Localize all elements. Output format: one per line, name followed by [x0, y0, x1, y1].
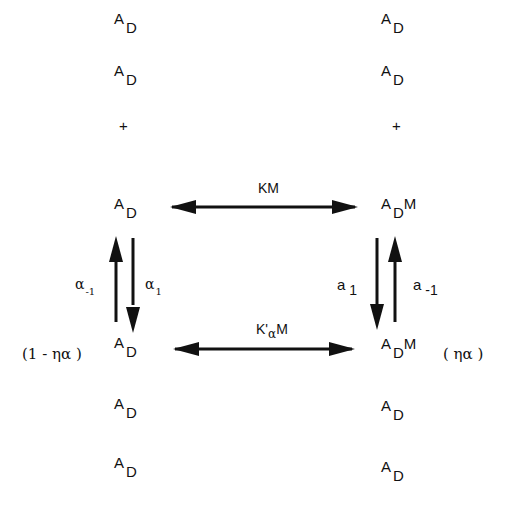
species-sub: D	[126, 71, 137, 88]
right-species-1: AD	[381, 11, 404, 26]
right-plus-sign: +	[392, 117, 401, 134]
label-base: K'	[256, 321, 268, 337]
species-sub: D	[393, 204, 404, 221]
label-sub: α	[268, 327, 276, 341]
right-down-arrow	[370, 238, 384, 330]
species-base: A	[114, 395, 124, 412]
top-arrow-label: KM	[258, 180, 279, 196]
right-species-5: AD	[381, 398, 404, 413]
bottom-arrow-label: K'αM	[256, 321, 288, 337]
rate-symbol: a	[413, 276, 421, 293]
species-base: A	[114, 454, 124, 471]
rate-symbol: α	[145, 276, 154, 292]
right-species-2: AD	[381, 63, 404, 78]
species-sub: D	[126, 463, 137, 480]
left-species-2: AD	[114, 63, 137, 78]
rate-symbol: a	[337, 276, 345, 293]
rate-a-minus-1: a-1	[413, 276, 438, 293]
species-suffix: M	[404, 195, 417, 212]
species-base: A	[114, 62, 124, 79]
rate-index: -1	[85, 286, 95, 297]
left-up-arrow	[109, 236, 123, 322]
species-base: A	[381, 335, 391, 352]
species-sub: D	[126, 204, 137, 221]
rate-a-1: a1	[337, 276, 357, 293]
species-sub: D	[126, 343, 137, 360]
species-suffix: M	[404, 335, 417, 352]
rate-alpha-minus-1: α-1	[75, 276, 95, 292]
left-species-1: AD	[114, 11, 137, 26]
label-suffix: M	[276, 321, 288, 337]
left-species-5: AD	[114, 396, 137, 411]
species-base: A	[114, 195, 124, 212]
species-sub: D	[393, 71, 404, 88]
rate-alpha-1: α1	[145, 276, 162, 292]
rate-symbol: α	[75, 276, 84, 292]
reaction-arrows	[0, 0, 520, 510]
species-base: A	[381, 458, 391, 475]
left-species-alt: AD	[114, 335, 137, 350]
right-species-6: AD	[381, 459, 404, 474]
rate-index: 1	[349, 282, 357, 298]
bottom-equilibrium-arrow	[173, 342, 355, 356]
left-species-free: AD	[114, 196, 137, 211]
species-sub: D	[393, 406, 404, 423]
left-species-6: AD	[114, 455, 137, 470]
species-sub: D	[393, 19, 404, 36]
left-down-arrow	[126, 238, 140, 333]
rate-index: 1	[155, 286, 161, 297]
right-species-bound-alt: ADM	[381, 336, 416, 351]
species-base: A	[114, 10, 124, 27]
left-fraction-label: (1 - ηα )	[22, 345, 82, 363]
species-sub: D	[393, 467, 404, 484]
species-sub: D	[393, 344, 404, 361]
species-base: A	[114, 334, 124, 351]
species-base: A	[381, 62, 391, 79]
right-species-bound: ADM	[381, 196, 416, 211]
species-base: A	[381, 195, 391, 212]
right-up-arrow	[388, 236, 402, 322]
top-equilibrium-arrow	[170, 200, 358, 214]
left-plus-sign: +	[119, 117, 128, 134]
right-fraction-label: ( ηα )	[443, 345, 483, 363]
species-base: A	[381, 397, 391, 414]
rate-index: -1	[425, 282, 437, 298]
species-sub: D	[126, 19, 137, 36]
species-sub: D	[126, 404, 137, 421]
species-base: A	[381, 10, 391, 27]
